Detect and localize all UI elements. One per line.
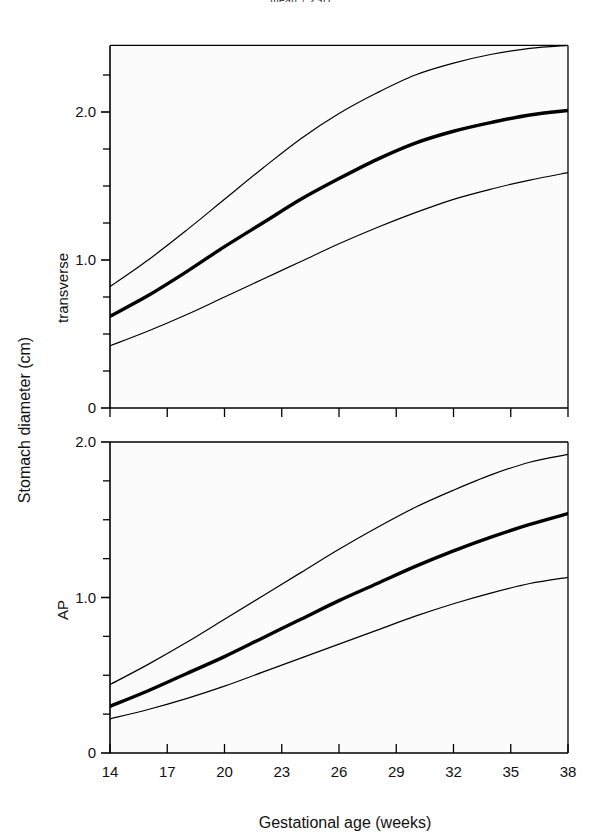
x-tick-label: 17 xyxy=(159,763,176,780)
x-tick-label: 32 xyxy=(445,763,462,780)
panel-transverse: 01.02.0transverse xyxy=(54,45,568,417)
y-tick-label: 2.0 xyxy=(75,433,96,450)
x-tick-label: 20 xyxy=(216,763,233,780)
figure-container: mean ± 2SD Stomach diameter (cm) Gestati… xyxy=(0,0,601,840)
x-tick-label: 26 xyxy=(331,763,348,780)
plot-background xyxy=(110,45,568,408)
y-tick-label: 2.0 xyxy=(75,103,96,120)
plot-background xyxy=(110,442,568,753)
panel-ap: 01.02.0141720232629323538AP xyxy=(54,433,576,780)
y-axis-title-text: Stomach diameter (cm) xyxy=(16,337,33,503)
x-tick-label: 23 xyxy=(273,763,290,780)
x-axis-title-text: Gestational age (weeks) xyxy=(259,814,432,831)
y-tick-label: 0 xyxy=(88,744,96,761)
y-tick-label: 0 xyxy=(88,399,96,416)
x-tick-label: 14 xyxy=(102,763,119,780)
y-tick-label: 1.0 xyxy=(75,251,96,268)
figure-top-caption: mean ± 2SD xyxy=(0,0,601,2)
panel-label-ap: AP xyxy=(54,600,71,620)
x-tick-label: 35 xyxy=(502,763,519,780)
y-tick-label: 1.0 xyxy=(75,589,96,606)
growth-chart-svg: Stomach diameter (cm) Gestational age (w… xyxy=(0,0,601,840)
x-tick-label: 38 xyxy=(560,763,577,780)
panel-label-transverse: transverse xyxy=(54,253,71,323)
y-axis-title: Stomach diameter (cm) xyxy=(16,337,33,503)
x-tick-label: 29 xyxy=(388,763,405,780)
